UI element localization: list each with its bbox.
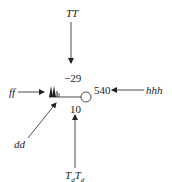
wind-barbs-icon	[49, 86, 59, 97]
label-tt: TT	[66, 8, 78, 19]
label-dd: dd	[14, 139, 25, 150]
label-tdtd: TdTd	[65, 170, 84, 182]
value-temperature: −29	[64, 73, 81, 84]
label-sub2: d	[81, 176, 85, 182]
label-hhh: hhh	[146, 85, 163, 96]
value-dewpoint-depression: 10	[70, 104, 81, 115]
station-circle-icon	[81, 92, 91, 102]
label-ff: ff	[9, 87, 15, 98]
value-pressure-height: 540	[94, 85, 111, 96]
dd-arrow	[28, 103, 56, 138]
